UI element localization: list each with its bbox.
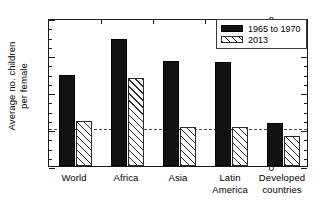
y-tick-major-2 bbox=[301, 131, 307, 132]
legend-swatch-solid-icon bbox=[221, 25, 243, 32]
bar-asia-2013 bbox=[180, 127, 196, 166]
y-tick-minor bbox=[304, 140, 307, 141]
x-tick-label-line2: countries bbox=[246, 184, 318, 196]
bar-latin-america-2013 bbox=[232, 127, 248, 166]
bar-africa-1965-to-1970 bbox=[111, 39, 127, 166]
y-tick-minor bbox=[49, 103, 52, 104]
y-tick-major-2 bbox=[49, 131, 55, 132]
x-tick-label-line1: Developed bbox=[259, 172, 305, 183]
x-tick-top bbox=[153, 20, 154, 24]
y-axis-title: Average no. children per female bbox=[0, 0, 34, 172]
x-tick-label-line1: Africa bbox=[114, 172, 139, 183]
y-tick-minor bbox=[49, 140, 52, 141]
bar-asia-1965-to-1970 bbox=[163, 61, 179, 166]
y-tick-major-8 bbox=[49, 20, 55, 21]
x-tick-label-line1: Asia bbox=[169, 172, 188, 183]
y-axis-title-line1: Average no. children bbox=[6, 42, 17, 131]
y-tick-major-6 bbox=[49, 57, 55, 58]
y-tick-minor bbox=[49, 113, 52, 114]
bar-world-2013 bbox=[76, 121, 92, 166]
figure-bar-chart-fertility: Average no. children per female 02468 Wo… bbox=[0, 0, 326, 210]
bar-developed-countries-2013 bbox=[284, 136, 300, 166]
legend: 1965 to 1970 2013 bbox=[216, 19, 307, 49]
y-tick-major-4 bbox=[301, 94, 307, 95]
y-tick-minor bbox=[49, 85, 52, 86]
y-tick-minor bbox=[304, 85, 307, 86]
bar-latin-america-1965-to-1970 bbox=[215, 62, 231, 166]
y-tick-minor bbox=[49, 39, 52, 40]
legend-label-0: 1965 to 1970 bbox=[248, 24, 301, 34]
y-tick-minor bbox=[304, 66, 307, 67]
y-tick-minor bbox=[49, 122, 52, 123]
y-tick-minor bbox=[304, 103, 307, 104]
x-tick-label-line1: World bbox=[61, 172, 86, 183]
legend-item-0: 1965 to 1970 bbox=[221, 23, 301, 34]
y-tick-minor bbox=[304, 150, 307, 151]
y-tick-major-0 bbox=[49, 168, 55, 169]
y-tick-minor bbox=[304, 159, 307, 160]
bar-developed-countries-1965-to-1970 bbox=[267, 123, 283, 166]
y-tick-minor bbox=[49, 76, 52, 77]
legend-swatch-hatch-icon bbox=[221, 36, 243, 43]
x-tick-label-line1: Latin bbox=[219, 172, 240, 183]
y-tick-major-4 bbox=[49, 94, 55, 95]
legend-item-1: 2013 bbox=[221, 34, 301, 45]
y-tick-minor bbox=[304, 76, 307, 77]
x-tick-top bbox=[205, 20, 206, 24]
y-tick-minor bbox=[49, 29, 52, 30]
bar-world-1965-to-1970 bbox=[59, 75, 75, 166]
y-tick-major-6 bbox=[301, 57, 307, 58]
bar-africa-2013 bbox=[128, 78, 144, 166]
legend-label-1: 2013 bbox=[248, 35, 268, 45]
y-tick-minor bbox=[304, 122, 307, 123]
y-tick-minor bbox=[49, 159, 52, 160]
y-tick-minor bbox=[49, 48, 52, 49]
y-axis-title-line2: per female bbox=[17, 42, 29, 131]
x-tick-label-developed-countries: Developedcountries bbox=[246, 172, 318, 195]
y-tick-minor bbox=[49, 150, 52, 151]
x-tick-top bbox=[101, 20, 102, 24]
y-tick-major-0 bbox=[301, 168, 307, 169]
y-tick-minor bbox=[49, 66, 52, 67]
y-tick-minor bbox=[304, 113, 307, 114]
